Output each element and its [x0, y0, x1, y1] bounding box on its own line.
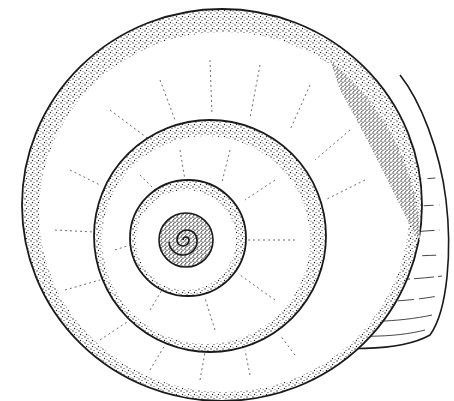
shell-illustration — [0, 0, 454, 401]
shell-drawing — [0, 0, 454, 401]
apex-whorl — [159, 213, 213, 267]
